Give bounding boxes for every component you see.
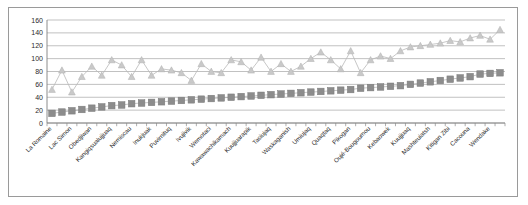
data-point-square <box>79 106 86 113</box>
data-point-square <box>268 91 275 98</box>
x-tick-label: Nemiscau <box>108 124 133 149</box>
data-point-triangle <box>148 72 155 78</box>
data-point-triangle <box>347 48 354 54</box>
data-point-square <box>208 95 215 102</box>
data-point-triangle <box>158 66 165 72</box>
data-point-square <box>118 102 125 109</box>
data-point-square <box>218 95 225 102</box>
plot-area: 020406080100120140160La RomaineLac Simon… <box>9 8 519 198</box>
y-tick-label: 160 <box>31 17 43 24</box>
y-tick-label: 60 <box>35 81 43 88</box>
data-point-square <box>417 80 424 87</box>
data-point-square <box>49 110 56 117</box>
data-point-square <box>168 98 175 105</box>
y-tick-label: 120 <box>31 42 43 49</box>
x-tick-label: Quaqtaq <box>310 124 332 146</box>
data-point-square <box>198 96 205 103</box>
x-tick-label: Wendake <box>467 124 491 148</box>
data-point-square <box>89 105 96 112</box>
data-point-square <box>487 70 494 77</box>
data-point-square <box>367 84 374 91</box>
data-point-square <box>128 100 135 107</box>
data-point-square <box>357 85 364 92</box>
data-point-square <box>308 89 315 96</box>
chart-svg: 020406080100120140160La RomaineLac Simon… <box>9 8 519 198</box>
x-tick-label: Puvirnituq <box>148 124 173 149</box>
data-point-square <box>188 97 195 104</box>
data-point-square <box>318 88 325 95</box>
data-point-triangle <box>367 57 374 63</box>
data-point-square <box>477 71 484 78</box>
data-point-square <box>387 83 394 90</box>
data-point-triangle <box>49 86 56 92</box>
x-tick-label: Ivujivik <box>174 124 193 143</box>
data-point-square <box>158 98 165 105</box>
data-point-square <box>377 84 384 91</box>
data-point-square <box>148 99 155 106</box>
data-point-square <box>138 100 145 107</box>
data-point-square <box>178 97 185 104</box>
data-point-triangle <box>278 60 285 66</box>
data-point-triangle <box>118 62 125 68</box>
data-point-square <box>467 73 474 80</box>
chart-container: 020406080100120140160La RomaineLac Simon… <box>8 7 518 197</box>
data-point-triangle <box>497 26 504 32</box>
data-point-triangle <box>447 37 454 43</box>
data-point-triangle <box>198 60 205 66</box>
data-point-triangle <box>317 49 324 55</box>
data-point-square <box>59 109 66 116</box>
data-point-triangle <box>228 57 235 63</box>
data-point-square <box>337 87 344 94</box>
data-point-square <box>108 102 115 109</box>
x-tick-label: Kebaowek <box>366 124 392 150</box>
data-point-triangle <box>59 67 66 73</box>
data-point-square <box>278 91 285 98</box>
data-point-square <box>427 79 434 86</box>
data-point-square <box>69 107 76 114</box>
data-point-square <box>347 86 354 93</box>
y-tick-label: 80 <box>35 68 43 75</box>
x-tick-label: Umiujaq <box>291 124 312 145</box>
data-point-triangle <box>397 48 404 54</box>
x-tick-label: Kangiqsualujjuaq <box>74 124 113 163</box>
data-point-triangle <box>88 63 95 69</box>
data-point-triangle <box>297 63 304 69</box>
data-point-triangle <box>258 54 265 60</box>
y-tick-label: 100 <box>31 55 43 62</box>
y-tick-label: 0 <box>39 120 43 127</box>
x-tick-label: La Romaine <box>24 124 53 153</box>
data-point-triangle <box>327 57 334 63</box>
data-point-square <box>447 76 454 83</box>
data-point-square <box>298 89 305 96</box>
data-point-square <box>457 75 464 82</box>
data-point-square <box>437 77 444 84</box>
data-point-square <box>228 94 235 101</box>
y-tick-label: 40 <box>35 94 43 101</box>
data-point-triangle <box>138 57 145 63</box>
data-point-square <box>288 90 295 97</box>
data-point-square <box>238 93 245 100</box>
data-point-triangle <box>108 57 115 63</box>
data-point-square <box>497 69 504 76</box>
data-point-triangle <box>188 77 195 83</box>
data-point-square <box>98 104 105 111</box>
data-point-triangle <box>377 53 384 59</box>
data-point-square <box>258 92 265 99</box>
y-tick-label: 140 <box>31 29 43 36</box>
data-point-square <box>248 93 255 100</box>
data-point-square <box>397 82 404 89</box>
data-point-square <box>407 81 414 88</box>
y-tick-label: 20 <box>35 107 43 114</box>
data-point-square <box>327 88 334 95</box>
data-point-triangle <box>68 89 75 95</box>
